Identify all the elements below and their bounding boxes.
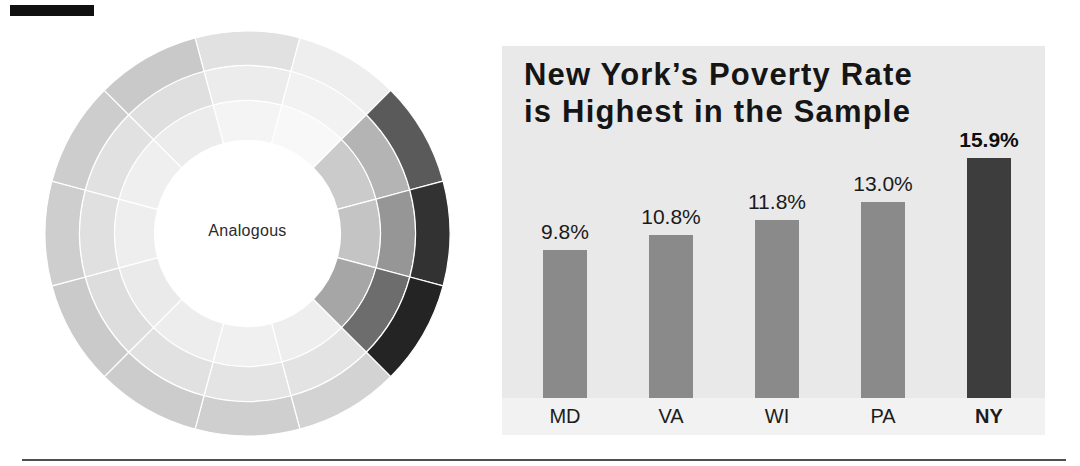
chart-title-line1: New York’s Poverty Rate [524, 56, 913, 93]
value-label-VA: 10.8% [626, 205, 716, 229]
bar-NY [967, 158, 1011, 398]
wheel-segment-12-outer [195, 31, 300, 71]
wheel-segment-6-outer [195, 396, 300, 436]
wheel-segment-3-outer [410, 181, 450, 286]
page-divider-rule [22, 459, 1066, 461]
figure-page: Analogous New York’s Poverty Rate is Hig… [0, 0, 1080, 466]
category-label-WI: WI [732, 405, 822, 428]
bar-PA [861, 202, 905, 398]
wheel-segment-12-inner [213, 100, 282, 143]
wheel-segment-9-middle [79, 190, 119, 277]
wheel-segment-12-middle [204, 65, 291, 105]
value-label-PA: 13.0% [838, 172, 928, 196]
value-label-MD: 9.8% [520, 220, 610, 244]
wheel-segment-6-inner [213, 323, 282, 366]
bar-MD [543, 250, 587, 398]
value-label-WI: 11.8% [732, 190, 822, 214]
wheel-segment-9-outer [45, 181, 85, 286]
wheel-segment-3-middle [376, 190, 416, 277]
bar-WI [755, 220, 799, 398]
category-label-VA: VA [626, 405, 716, 428]
bar-VA [649, 235, 693, 398]
chart-title-line2: is Highest in the Sample [524, 93, 913, 130]
category-label-NY: NY [944, 405, 1034, 428]
wheel-segment-6-middle [204, 362, 291, 402]
chart-title: New York’s Poverty Rate is Highest in th… [524, 56, 913, 130]
page-crop-mark [10, 5, 94, 16]
category-label-MD: MD [520, 405, 610, 428]
category-label-PA: PA [838, 405, 928, 428]
bar-chart-panel: New York’s Poverty Rate is Highest in th… [502, 46, 1045, 435]
value-label-NY: 15.9% [944, 128, 1034, 152]
color-wheel-label: Analogous [147, 222, 348, 240]
